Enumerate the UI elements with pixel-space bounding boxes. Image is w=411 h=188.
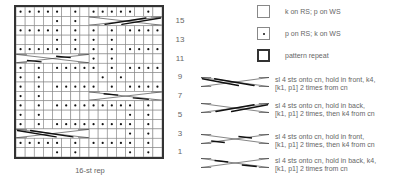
cable-front-full-text: sl 4 sts onto cn, hold in front, k4, [k1… xyxy=(275,76,375,92)
row-number: 1 xyxy=(174,147,186,156)
cable-back-split-icon xyxy=(200,157,270,169)
cable-front-full xyxy=(16,129,89,138)
cable-front-split-text: sl 4 sts onto cn, hold in front, [k1, p1… xyxy=(275,133,375,149)
repeat-box-icon xyxy=(257,49,270,62)
row-number: 9 xyxy=(174,72,186,81)
cable-back-split xyxy=(89,91,162,100)
cable-back-full xyxy=(89,16,162,25)
cable-back-full-icon xyxy=(200,102,270,114)
cable-text-line2: [k1, p1] 2 times, then k4 from cn xyxy=(275,141,375,149)
row-number: 15 xyxy=(174,16,186,25)
row-number: 3 xyxy=(174,129,186,138)
cable-text-line1: sl 4 sts onto cn, hold in front, k4, xyxy=(275,76,375,84)
legend-repeat: pattern repeat xyxy=(257,49,329,62)
cable-back-full-text: sl 4 sts onto cn, hold in back, [k1, p1]… xyxy=(275,102,375,118)
legend-knit-text: k on RS; p on WS xyxy=(285,8,341,16)
empty-square-icon xyxy=(257,5,270,18)
cable-front-split-icon xyxy=(200,133,270,145)
cable-text-line1: sl 4 sts onto cn, hold in back, k4, xyxy=(275,157,376,165)
cable-text-line2: [k1, p1] 2 times from cn xyxy=(275,84,375,92)
row-number: 7 xyxy=(174,91,186,100)
row-number: 5 xyxy=(174,110,186,119)
cable-back-split-text: sl 4 sts onto cn, hold in back, k4, [k1,… xyxy=(275,157,376,173)
dot-square-icon xyxy=(257,27,270,40)
cable-text-line1: sl 4 sts onto cn, hold in back, xyxy=(275,102,375,110)
chart-grid xyxy=(16,7,162,157)
row-number: 13 xyxy=(174,35,186,44)
stitch-chart xyxy=(14,5,164,159)
cable-text-line1: sl 4 sts onto cn, hold in front, xyxy=(275,133,375,141)
cable-text-line2: [k1, p1] 2 times from cn xyxy=(275,165,376,173)
legend-purl-text: p on RS; k on WS xyxy=(285,30,341,38)
legend-purl: p on RS; k on WS xyxy=(257,27,341,40)
cable-front-split xyxy=(16,54,89,63)
chart-caption: 16-st rep xyxy=(60,166,120,175)
cable-front-full-icon xyxy=(200,76,270,88)
legend-repeat-text: pattern repeat xyxy=(285,52,329,60)
legend-knit: k on RS; p on WS xyxy=(257,5,341,18)
cable-text-line2: [k1, p1] 2 times, then k4 from cn xyxy=(275,110,375,118)
row-number: 11 xyxy=(174,54,186,63)
